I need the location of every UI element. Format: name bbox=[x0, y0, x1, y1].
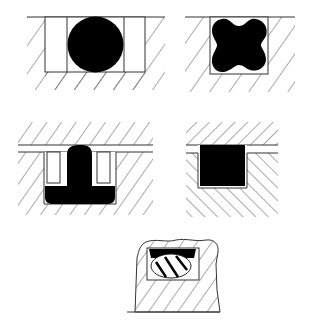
x-ring-seal bbox=[212, 19, 267, 72]
o-ring-seal bbox=[68, 17, 124, 73]
panel-x-ring bbox=[185, 17, 295, 92]
energizer-o-ring bbox=[151, 254, 191, 278]
panel-square-ring bbox=[186, 122, 278, 217]
panel-capped-seal bbox=[127, 239, 220, 312]
square-ring-seal bbox=[200, 145, 245, 186]
panel-o-ring bbox=[27, 17, 165, 91]
panel-t-seal bbox=[18, 122, 153, 215]
seal-diagram-figure bbox=[0, 0, 311, 330]
